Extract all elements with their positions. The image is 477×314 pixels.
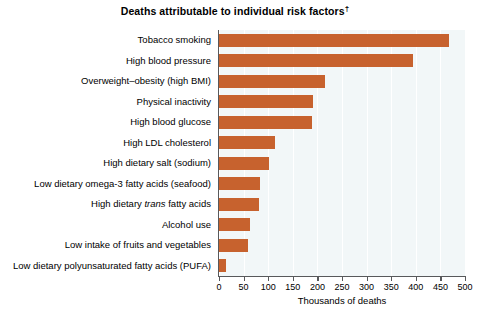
- x-tick-label: 500: [448, 282, 477, 293]
- bar: [219, 95, 313, 108]
- y-axis-tick-label: Tobacco smoking: [138, 34, 211, 45]
- bar: [219, 75, 325, 88]
- x-tick-mark: [219, 277, 220, 281]
- y-axis-tick-label: Low dietary omega-3 fatty acids (seafood…: [34, 178, 211, 189]
- y-axis-tick-label: High blood glucose: [130, 116, 211, 127]
- x-tick-mark: [317, 277, 318, 281]
- y-axis-tick-label: High dietary trans fatty acids: [91, 198, 211, 209]
- y-axis-tick-label: High blood pressure: [126, 55, 211, 66]
- bar: [219, 198, 259, 211]
- y-axis-tick-label: Low intake of fruits and vegetables: [65, 239, 211, 250]
- chart-title: Deaths attributable to individual risk f…: [0, 5, 470, 17]
- y-axis-tick-label: High LDL cholesterol: [123, 137, 211, 148]
- x-tick-mark: [440, 277, 441, 281]
- y-axis-tick-label: Physical inactivity: [137, 96, 211, 107]
- bar: [219, 259, 226, 272]
- gridline: [440, 30, 441, 276]
- bar: [219, 157, 269, 170]
- y-axis-line: [218, 30, 219, 277]
- gridline: [416, 30, 417, 276]
- bar: [219, 54, 413, 67]
- x-tick-mark: [244, 277, 245, 281]
- x-axis-label: Thousands of deaths: [219, 295, 465, 306]
- x-tick-mark: [293, 277, 294, 281]
- x-tick-mark: [268, 277, 269, 281]
- title-footnote-marker: †: [345, 4, 350, 13]
- bar: [219, 34, 449, 47]
- gridline: [465, 30, 466, 276]
- bar: [219, 136, 275, 149]
- x-tick-mark: [342, 277, 343, 281]
- y-axis-tick-label: High dietary salt (sodium): [103, 157, 211, 168]
- y-axis-tick-label: Overweight–obesity (high BMI): [81, 75, 211, 86]
- bar: [219, 218, 250, 231]
- x-tick-mark: [465, 277, 466, 281]
- plot-area: [219, 30, 465, 276]
- y-axis-category-labels: Tobacco smokingHigh blood pressureOverwe…: [0, 30, 215, 276]
- bar: [219, 177, 260, 190]
- x-tick-mark: [391, 277, 392, 281]
- bar: [219, 116, 312, 129]
- y-axis-tick-label: Low dietary polyunsaturated fatty acids …: [13, 260, 211, 271]
- x-tick-mark: [367, 277, 368, 281]
- x-tick-mark: [416, 277, 417, 281]
- bar: [219, 239, 248, 252]
- y-axis-tick-label: Alcohol use: [162, 219, 211, 230]
